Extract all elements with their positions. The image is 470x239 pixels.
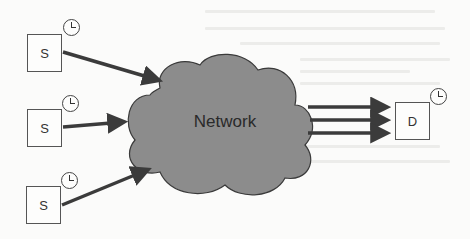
source-node-2: S [27, 109, 62, 147]
network-diagram: Network S S S D [0, 0, 470, 239]
source-node-3: S [26, 186, 61, 224]
network-label: Network [180, 112, 270, 132]
destination-node: D [395, 102, 430, 140]
clock-icon [63, 19, 80, 36]
arrow-s2-to-network [63, 122, 123, 127]
clock-icon [62, 95, 79, 112]
source-node-1: S [27, 34, 62, 72]
source-label: S [39, 198, 48, 213]
source-label: S [40, 46, 49, 61]
arrow-s1-to-network [63, 52, 158, 80]
source-label: S [40, 121, 49, 136]
clock-icon [430, 88, 447, 105]
clock-icon [61, 172, 78, 189]
destination-label: D [408, 114, 417, 129]
